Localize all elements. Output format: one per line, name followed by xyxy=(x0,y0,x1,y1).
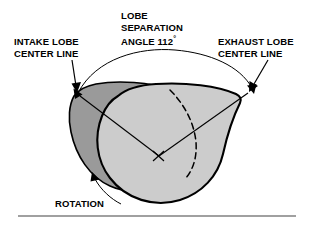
intake-label-line2: CENTER LINE xyxy=(14,48,78,59)
exhaust-lobe-shape xyxy=(97,83,240,202)
angle-label-line2: SEPARATION xyxy=(121,22,183,33)
exhaust-leader-arrow xyxy=(249,60,268,92)
exhaust-label-line1: EXHAUST LOBE xyxy=(218,36,294,47)
rotation-label: ROTATION xyxy=(55,198,104,210)
intake-label-line1: INTAKE LOBE xyxy=(14,36,79,47)
degree-symbol: ° xyxy=(173,35,176,42)
intake-lobe-center-line-label: INTAKE LOBECENTER LINE xyxy=(14,36,79,59)
exhaust-lobe-center-line-label: EXHAUST LOBECENTER LINE xyxy=(218,36,294,59)
intake-leader-arrow xyxy=(72,60,82,93)
angle-label-line3: ANGLE 112 xyxy=(121,36,173,47)
lobe-separation-angle-label: LOBESEPARATIONANGLE 112° xyxy=(121,10,183,48)
lobe-separation-angle-diagram: INTAKE LOBECENTER LINE EXHAUST LOBECENTE… xyxy=(0,0,313,229)
exhaust-label-line2: CENTER LINE xyxy=(218,48,282,59)
angle-label-line1: LOBE xyxy=(121,10,148,21)
